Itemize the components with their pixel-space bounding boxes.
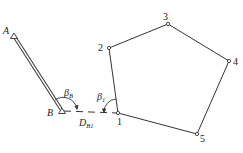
traverse-diagram: A B 1 2 3 4 5 βB β1 DB1 — [0, 0, 243, 153]
angle-arc-beta-1 — [104, 99, 116, 112]
label-3: 3 — [163, 11, 168, 22]
label-4: 4 — [233, 56, 238, 67]
point-3-marker — [166, 22, 169, 25]
label-beta-B: βB — [63, 87, 73, 99]
label-B: B — [47, 107, 53, 118]
label-5: 5 — [200, 133, 205, 144]
baseline-AB — [14, 36, 61, 109]
label-2: 2 — [98, 42, 103, 53]
point-2-marker — [107, 46, 110, 49]
label-A: A — [2, 25, 10, 36]
point-1-marker — [116, 111, 119, 114]
point-A-triangle-marker — [11, 33, 18, 39]
label-1: 1 — [117, 116, 122, 127]
label-beta-1: β1 — [96, 91, 105, 103]
label-distance-DB1: DB1 — [78, 117, 93, 129]
closed-traverse — [109, 24, 229, 134]
point-4-marker — [227, 59, 230, 62]
connecting-line-B1 — [64, 111, 117, 113]
point-5-marker — [195, 132, 198, 135]
